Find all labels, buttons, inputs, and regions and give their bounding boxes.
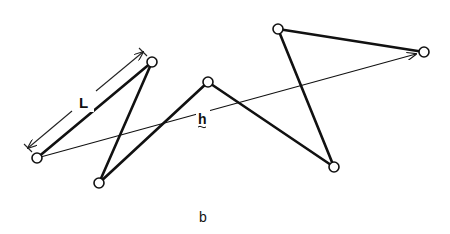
node-6 xyxy=(273,24,283,34)
bond-1-2 xyxy=(37,62,152,158)
node-5 xyxy=(329,162,339,172)
bond-6-7 xyxy=(278,29,424,52)
dimension-line-lower xyxy=(28,111,72,148)
node-7 xyxy=(419,47,429,57)
node-1 xyxy=(32,153,42,163)
end-to-end-vector-label: h xyxy=(198,111,207,127)
node-3 xyxy=(94,178,104,188)
figure-caption: b xyxy=(199,209,207,225)
node-2 xyxy=(147,57,157,67)
chain-bonds xyxy=(37,29,424,183)
bond-5-6 xyxy=(278,29,334,167)
freely-jointed-chain-diagram: L h b xyxy=(0,0,450,234)
node-4 xyxy=(203,77,213,87)
segment-length-label: L xyxy=(79,94,88,111)
bond-2-3 xyxy=(99,62,152,183)
dimension-line-upper xyxy=(96,52,143,91)
bond-3-4 xyxy=(99,82,208,183)
bond-4-5 xyxy=(208,82,334,167)
